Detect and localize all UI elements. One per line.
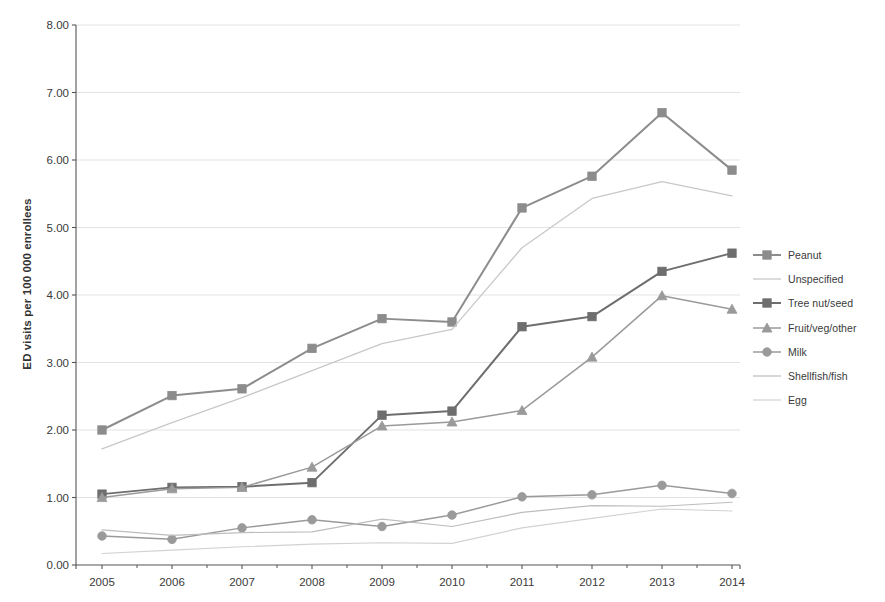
data-point <box>378 411 386 419</box>
data-point <box>238 385 246 393</box>
x-tick-label: 2011 <box>510 576 535 588</box>
series-peanut <box>98 109 736 435</box>
data-point <box>588 312 596 320</box>
y-axis-title: ED visits per 100 000 enrollees <box>21 169 33 399</box>
x-tick-label: 2013 <box>649 576 675 588</box>
x-tick-label: 2009 <box>369 576 395 588</box>
gridlines <box>76 25 740 498</box>
x-tick-label: 2014 <box>719 576 745 588</box>
data-point <box>308 344 316 352</box>
legend-label: Egg <box>788 394 807 406</box>
data-point <box>658 481 667 490</box>
plot-area: 0.001.002.003.004.005.006.007.008.00 200… <box>76 25 740 565</box>
y-tick-label: 2.00 <box>47 424 69 436</box>
legend-swatch-line-icon <box>752 393 782 407</box>
legend-swatch-triangle-icon <box>752 321 782 335</box>
y-tick-label: 8.00 <box>47 19 69 31</box>
y-tick-label: 5.00 <box>47 222 69 234</box>
x-tick-label: 2005 <box>89 576 115 588</box>
x-tick-label: 2007 <box>229 576 255 588</box>
legend-swatch-line-icon <box>752 272 782 286</box>
data-point <box>238 524 247 533</box>
legend-label: Unspecified <box>788 273 843 285</box>
data-point <box>518 204 526 212</box>
data-point <box>308 515 317 524</box>
legend-label: Milk <box>788 346 807 358</box>
legend-swatch-line-icon <box>752 369 782 383</box>
data-point <box>518 323 526 331</box>
data-point <box>448 318 456 326</box>
series-shellfish-fish <box>102 502 732 535</box>
legend-swatch-square-icon <box>752 248 782 262</box>
legend-item-milk[interactable]: Milk <box>752 340 882 364</box>
legend-swatch-square-icon <box>752 296 782 310</box>
legend-item-egg[interactable]: Egg <box>752 388 882 412</box>
x-tick-label: 2012 <box>579 576 605 588</box>
y-tick-label: 6.00 <box>47 154 69 166</box>
chart-canvas <box>76 25 740 565</box>
data-point <box>728 249 736 257</box>
chart-legend: PeanutUnspecifiedTree nut/seedFruit/veg/… <box>752 243 882 412</box>
data-point <box>378 522 387 531</box>
x-tick-label: 2008 <box>299 576 325 588</box>
x-tick-label: 2010 <box>439 576 465 588</box>
data-series-layer <box>97 109 737 554</box>
data-point <box>517 405 527 414</box>
line-chart: ED visits per 100 000 enrollees 0.001.00… <box>0 0 885 602</box>
data-point <box>98 426 106 434</box>
y-tick-label: 4.00 <box>47 289 69 301</box>
y-tick-label: 0.00 <box>47 559 69 571</box>
legend-item-tree-nut-seed[interactable]: Tree nut/seed <box>752 291 882 315</box>
data-point <box>448 511 457 520</box>
legend-item-unspecified[interactable]: Unspecified <box>752 267 882 291</box>
data-point <box>448 407 456 415</box>
legend-label: Fruit/veg/other <box>788 322 856 334</box>
data-point <box>98 532 107 541</box>
series-unspecified <box>102 182 732 449</box>
legend-label: Peanut <box>788 249 822 261</box>
legend-swatch-diamond-icon <box>752 345 782 359</box>
data-point <box>378 314 386 322</box>
legend-label: Shellfish/fish <box>788 370 848 382</box>
data-point <box>588 172 596 180</box>
data-point <box>658 267 666 275</box>
data-point <box>588 491 597 500</box>
data-point <box>168 535 177 544</box>
legend-label: Tree nut/seed <box>788 297 853 309</box>
data-point <box>168 391 176 399</box>
data-point <box>728 489 737 498</box>
data-point <box>728 166 736 174</box>
series-fruit-veg-other <box>97 291 737 502</box>
x-tick-label: 2006 <box>159 576 185 588</box>
series-egg <box>102 509 732 554</box>
data-point <box>307 462 317 471</box>
y-tick-label: 3.00 <box>47 357 69 369</box>
data-point <box>308 478 316 486</box>
legend-item-fruit-veg-other[interactable]: Fruit/veg/other <box>752 316 882 340</box>
series-tree-nut-seed <box>98 249 736 498</box>
y-tick-label: 1.00 <box>47 492 69 504</box>
data-point <box>518 493 527 502</box>
legend-item-shellfish-fish[interactable]: Shellfish/fish <box>752 364 882 388</box>
legend-item-peanut[interactable]: Peanut <box>752 243 882 267</box>
data-point <box>658 109 666 117</box>
y-tick-label: 7.00 <box>47 87 69 99</box>
